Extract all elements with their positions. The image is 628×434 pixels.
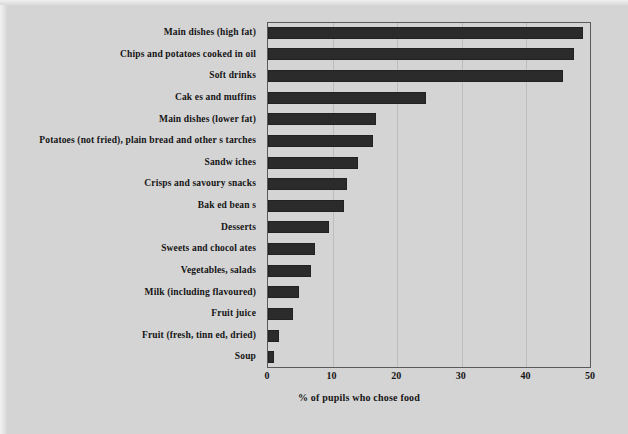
bar xyxy=(268,27,583,39)
bar xyxy=(268,70,563,82)
bar-track xyxy=(268,44,574,66)
bar-row: Vegetables, salads xyxy=(0,260,628,282)
bar-row: Sandw iches xyxy=(0,152,628,174)
bar-track xyxy=(268,130,373,152)
bar xyxy=(268,330,279,342)
bar-track xyxy=(268,152,358,174)
bar xyxy=(268,178,347,190)
bar-row: Potatoes (not fried), plain bread and ot… xyxy=(0,130,628,152)
bar xyxy=(268,221,329,233)
bar-row: Milk (including flavoured) xyxy=(0,282,628,304)
category-label: Fruit juice xyxy=(211,303,256,325)
x-tick-label: 50 xyxy=(585,370,595,381)
bar-rows: Main dishes (high fat)Chips and potatoes… xyxy=(0,22,628,368)
category-label: Chips and potatoes cooked in oil xyxy=(120,44,256,66)
bar-row: Main dishes (lower fat) xyxy=(0,109,628,131)
x-axis-title: % of pupils who chose food xyxy=(0,392,628,403)
x-tick-label: 10 xyxy=(327,370,337,381)
bar xyxy=(268,351,274,363)
bar-track xyxy=(268,87,426,109)
bar-row: Fruit juice xyxy=(0,303,628,325)
category-label: Vegetables, salads xyxy=(181,260,256,282)
category-label: Main dishes (lower fat) xyxy=(159,109,256,131)
category-label: Desserts xyxy=(221,217,256,239)
bar-row: Soft drinks xyxy=(0,65,628,87)
chart-screenshot: Main dishes (high fat)Chips and potatoes… xyxy=(0,0,628,434)
x-tick-label: 0 xyxy=(265,370,270,381)
bar xyxy=(268,200,344,212)
bar xyxy=(268,286,299,298)
bar xyxy=(268,113,376,125)
category-label: Cak es and muffins xyxy=(175,87,256,109)
x-tick-label: 30 xyxy=(456,370,466,381)
bar-track xyxy=(268,22,583,44)
bar-row: Soup xyxy=(0,346,628,368)
bar-row: Sweets and chocol ates xyxy=(0,238,628,260)
bar-row: Desserts xyxy=(0,217,628,239)
bar xyxy=(268,308,293,320)
bar xyxy=(268,92,426,104)
category-label: Bak ed bean s xyxy=(198,195,256,217)
bar-track xyxy=(268,238,315,260)
bar-track xyxy=(268,282,299,304)
bar xyxy=(268,243,315,255)
bar-track xyxy=(268,260,311,282)
bar-track xyxy=(268,346,274,368)
bar xyxy=(268,135,373,147)
category-label: Main dishes (high fat) xyxy=(164,22,256,44)
bar xyxy=(268,265,311,277)
x-tick-label: 20 xyxy=(391,370,401,381)
bar-row: Crisps and savoury snacks xyxy=(0,173,628,195)
category-label: Soup xyxy=(235,346,256,368)
category-label: Fruit (fresh, tinn ed, dried) xyxy=(142,325,256,347)
category-label: Soft drinks xyxy=(209,65,256,87)
bar-row: Chips and potatoes cooked in oil xyxy=(0,44,628,66)
category-label: Sweets and chocol ates xyxy=(161,238,256,260)
bar xyxy=(268,157,358,169)
category-label: Potatoes (not fried), plain bread and ot… xyxy=(39,130,256,152)
bar-row: Cak es and muffins xyxy=(0,87,628,109)
category-label: Sandw iches xyxy=(204,152,256,174)
bar-track xyxy=(268,217,329,239)
bar-track xyxy=(268,109,376,131)
x-axis-ticks: 01020304050 xyxy=(267,370,591,386)
bar-track xyxy=(268,303,293,325)
bar-track xyxy=(268,173,347,195)
bar xyxy=(268,48,574,60)
bar-row: Fruit (fresh, tinn ed, dried) xyxy=(0,325,628,347)
bar-row: Main dishes (high fat) xyxy=(0,22,628,44)
bar-row: Bak ed bean s xyxy=(0,195,628,217)
bar-track xyxy=(268,325,279,347)
bar-track xyxy=(268,195,344,217)
x-tick-label: 40 xyxy=(520,370,530,381)
category-label: Crisps and savoury snacks xyxy=(144,173,256,195)
category-label: Milk (including flavoured) xyxy=(145,282,256,304)
bar-track xyxy=(268,65,563,87)
